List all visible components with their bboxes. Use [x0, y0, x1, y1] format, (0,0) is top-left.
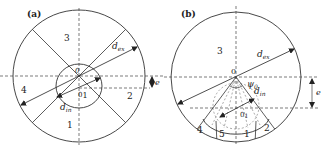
region-2-a: 2 — [127, 91, 133, 101]
e-label-b: e — [316, 88, 321, 97]
e-label-a: e — [155, 78, 160, 87]
panel-b-label: (b) — [181, 9, 196, 19]
angle-psi0-label-b: ψ0 — [247, 79, 258, 90]
center-o-label-b: 0 — [231, 67, 236, 76]
region-4-b: 4 — [197, 125, 203, 135]
diagram-canvas: (a) 3 2 4 1 dex din 0 01 e (b) — [0, 0, 328, 145]
region-1-a: 1 — [67, 120, 73, 130]
region-3-b: 3 — [217, 46, 223, 56]
d-ex-label-a: dex — [112, 41, 125, 52]
panel-a-label: (a) — [27, 9, 41, 19]
d-ex-label-b: dex — [257, 49, 270, 60]
region-2-b: 2 — [264, 123, 270, 133]
region-4-a: 4 — [21, 85, 27, 95]
center-o1-label-a: 01 — [78, 91, 88, 100]
center-o1-label-b: 01 — [240, 111, 248, 119]
panel-b: (b) 3 4 — [164, 6, 321, 145]
panel-a: (a) 3 2 4 1 dex din 0 01 e — [0, 8, 164, 145]
region-5-b: 5 — [219, 129, 225, 139]
region-3-a: 3 — [64, 33, 70, 43]
center-o-label-a: 0 — [75, 67, 80, 75]
region-1-b: 1 — [244, 129, 250, 139]
